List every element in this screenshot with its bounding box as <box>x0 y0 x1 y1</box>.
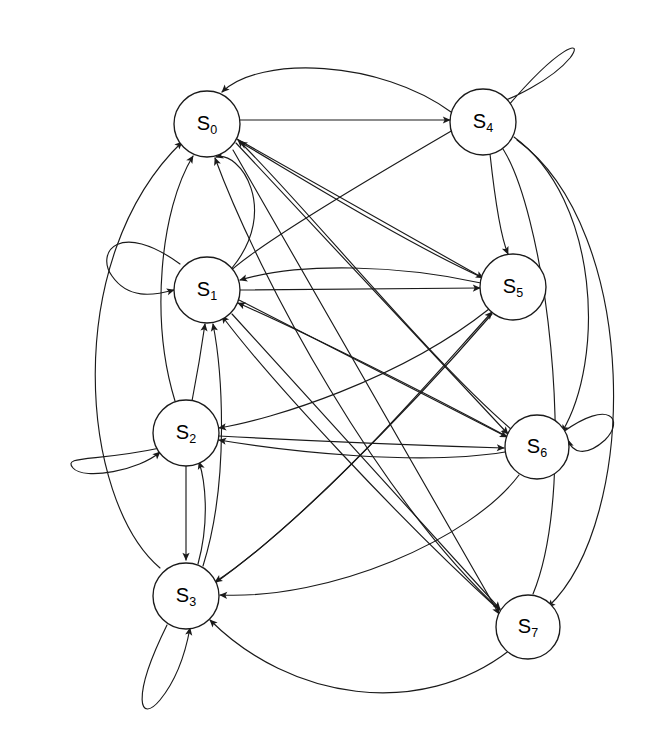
node-s4[interactable]: S4 <box>450 89 516 155</box>
edge-s4-s7 <box>517 140 614 607</box>
node-s0-base: S <box>197 112 210 134</box>
edge-s7-s4 <box>498 142 555 594</box>
edge-s6-self <box>563 414 614 451</box>
edge-s0-s5 <box>237 139 483 278</box>
edge-s1-self <box>107 242 180 294</box>
edge-s2-self <box>71 448 160 474</box>
node-s0[interactable]: S0 <box>174 91 240 157</box>
node-s2-base: S <box>176 421 189 443</box>
node-s5-base: S <box>503 275 516 297</box>
edge-s4-s5 <box>490 154 508 254</box>
node-s6[interactable]: S6 <box>505 415 569 479</box>
node-s4-base: S <box>473 110 486 132</box>
node-s5-sub: 5 <box>516 286 523 300</box>
edge-s6-s3 <box>220 475 519 595</box>
edge-s7-s3 <box>210 620 510 693</box>
node-s6-base: S <box>527 435 540 457</box>
node-s1[interactable]: S1 <box>174 257 240 323</box>
node-s7-sub: 7 <box>531 626 538 640</box>
state-graph-svg: S0 S1 S2 S3 <box>0 0 670 746</box>
node-s3[interactable]: S3 <box>153 563 219 629</box>
edge-s3-self <box>142 625 190 709</box>
edge-s2-s1 <box>192 324 205 401</box>
edge-s4-s0 <box>222 68 451 112</box>
node-s2[interactable]: S2 <box>153 400 219 466</box>
edge-s3-s0 <box>95 142 182 568</box>
edge-s1-s7 <box>232 314 500 609</box>
state-diagram-canvas: S0 S1 S2 S3 <box>0 0 670 746</box>
node-s4-sub: 4 <box>486 121 493 135</box>
edge-s1-s0 <box>216 156 255 268</box>
node-s5[interactable]: S5 <box>480 254 546 320</box>
node-s1-base: S <box>197 278 210 300</box>
node-s3-base: S <box>176 584 189 606</box>
edge-s4-self <box>494 48 574 106</box>
node-s7[interactable]: S7 <box>496 595 560 659</box>
node-s1-sub: 1 <box>210 289 217 303</box>
edge-s1-s6 <box>239 300 507 437</box>
node-s6-sub: 6 <box>540 446 547 460</box>
node-s2-sub: 2 <box>189 432 196 446</box>
node-s0-sub: 0 <box>210 123 217 137</box>
edge-s1-s5 <box>240 288 480 290</box>
node-s3-sub: 3 <box>189 595 196 609</box>
edge-s3-s2 <box>198 462 205 564</box>
node-s7-base: S <box>518 615 531 637</box>
